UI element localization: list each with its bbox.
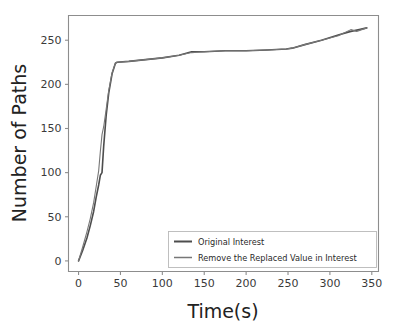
y-tick-label: 150	[41, 122, 62, 135]
x-tick-label: 300	[319, 277, 340, 290]
y-tick-label: 250	[41, 34, 62, 47]
line-chart: 050100150200250300350 050100150200250 Ti…	[0, 0, 400, 327]
x-tick-label: 100	[152, 277, 173, 290]
x-tick-label: 350	[361, 277, 382, 290]
legend: Original Interest Remove the Replaced Va…	[169, 232, 377, 268]
y-tick-label: 200	[41, 78, 62, 91]
y-tick-label: 50	[48, 211, 62, 224]
x-tick-label: 200	[236, 277, 257, 290]
legend-label-original-interest: Original Interest	[198, 237, 265, 247]
x-axis-title: Time(s)	[186, 300, 258, 322]
x-tick-label: 50	[113, 277, 127, 290]
x-tick-label: 150	[194, 277, 215, 290]
y-axis-title: Number of Paths	[8, 64, 30, 222]
y-tick-label: 100	[41, 166, 62, 179]
chart-figure: 050100150200250300350 050100150200250 Ti…	[0, 0, 400, 327]
y-tick-label: 0	[55, 255, 62, 268]
x-tick-label: 250	[278, 277, 299, 290]
legend-label-remove-replaced-value: Remove the Replaced Value in Interest	[198, 253, 358, 263]
x-tick-label: 0	[75, 277, 82, 290]
